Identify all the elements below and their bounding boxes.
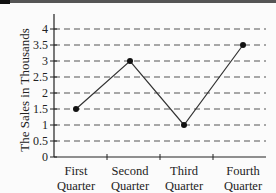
x-tick-label: Second [112, 164, 150, 178]
data-point [181, 122, 187, 128]
x-tick-label: Quarter [111, 179, 150, 193]
y-tick-label: 3 [42, 54, 48, 68]
data-point [73, 106, 79, 112]
x-tick-label: Third [170, 164, 199, 178]
x-tick-label: Quarter [57, 179, 96, 193]
y-tick-label: 2 [42, 86, 48, 100]
x-tick-label: Quarter [224, 179, 263, 193]
data-point [240, 42, 246, 48]
x-tick-label: First [65, 164, 88, 178]
y-tick-label: 0.5 [33, 134, 48, 148]
y-tick-label: 2.5 [33, 70, 48, 84]
x-tick-label: Quarter [165, 179, 204, 193]
y-tick-label: 3.5 [33, 38, 48, 52]
series-line [76, 45, 243, 125]
x-tick-label: Fourth [226, 164, 260, 178]
line-chart: 00.511.522.533.54FirstQuarterSecondQuart… [0, 0, 276, 193]
y-tick-label: 1 [42, 118, 48, 132]
data-point [127, 58, 133, 64]
y-tick-label: 0 [42, 150, 48, 164]
y-tick-label: 1.5 [33, 102, 48, 116]
y-tick-label: 4 [42, 22, 48, 36]
